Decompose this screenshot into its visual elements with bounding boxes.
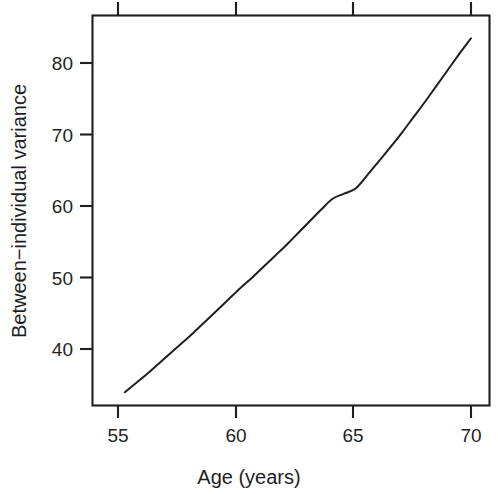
x-tick-label-55: 55: [107, 425, 128, 446]
y-axis-title: Between−individual variance: [8, 84, 30, 338]
y-tick-label-80: 80: [52, 53, 73, 74]
y-tick-label-50: 50: [52, 268, 73, 289]
x-axis-title: Age (years): [197, 466, 300, 488]
chart-figure: 55 60 65 70 40 50 60 70 80 Age (years) B…: [0, 0, 498, 494]
chart-canvas: 55 60 65 70 40 50 60 70 80 Age (years) B…: [0, 0, 498, 494]
y-tick-label-40: 40: [52, 339, 73, 360]
x-tick-label-70: 70: [460, 425, 481, 446]
x-tick-label-65: 65: [342, 425, 363, 446]
y-tick-label-60: 60: [52, 196, 73, 217]
x-tick-label-60: 60: [225, 425, 246, 446]
y-tick-label-70: 70: [52, 125, 73, 146]
chart-background: [0, 0, 498, 494]
